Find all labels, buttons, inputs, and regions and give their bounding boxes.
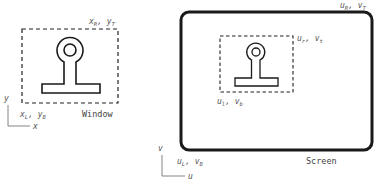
window-top-right-label: xR, yT [88,17,116,27]
window-panel: xR, yT xL, yB Window y x [3,17,118,131]
y-axis-label: y [3,94,9,103]
x-axis-label: x [32,122,38,131]
viewport-dashed-rect [220,36,293,92]
window-bottom-left-label: xL, yB [19,110,47,120]
viewport-bottom-left-label: ul, vb [217,97,243,107]
window-viewport-diagram: xR, yT xL, yB Window y x uR, vT ur, vt u… [0,0,378,185]
screen-rect [181,12,372,150]
screen-panel: uR, vT ur, vt ul, vb uL, vB Screen v u [158,1,372,181]
window-dashed-rect [22,29,118,103]
v-axis-label: v [158,144,163,153]
viewport-object [235,43,278,86]
window-object [42,37,100,93]
screen-caption: Screen [306,156,337,166]
screen-top-right-label: uR, vT [340,1,367,11]
screen-bottom-left-label: uL, vB [177,157,204,167]
window-caption: Window [82,109,114,119]
u-axis-label: u [188,172,193,181]
viewport-top-right-label: ur, vt [297,34,324,44]
